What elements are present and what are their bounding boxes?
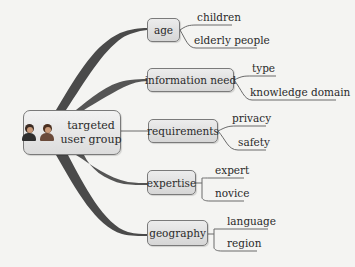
leaf-region[interactable]: region [227,237,261,249]
branch-label: information need [145,74,236,86]
leaf-type[interactable]: type [252,62,275,74]
center-label-line1: targeted [60,119,121,133]
branch-node-information-need[interactable]: information need [147,68,234,92]
leaf-connector-type [234,76,276,80]
branch-label: age [154,24,173,36]
center-label-line2: user group [60,133,121,147]
leaf-expert[interactable]: expert [215,164,249,176]
branch-node-expertise[interactable]: expertise [147,170,196,195]
person-icon [40,124,54,141]
central-node-targeted-user-group[interactable]: targeted user group [23,110,121,155]
central-node-label: targeted user group [60,119,121,147]
branch-label: expertise [147,177,196,189]
branch-node-age[interactable]: age [147,18,180,42]
branch-connector-expertise [76,155,147,185]
leaf-elderly-people[interactable]: elderly people [194,34,270,46]
branch-connector-geography [56,155,147,236]
leaf-connector-children [180,25,232,30]
leaf-knowledge-domain[interactable]: knowledge domain [250,86,350,98]
leaf-novice[interactable]: novice [215,187,249,199]
branch-node-requirements[interactable]: requirements [148,119,218,143]
leaf-children[interactable]: children [197,11,241,23]
branch-label: requirements [147,125,219,137]
leaf-safety[interactable]: safety [238,136,270,148]
branch-node-geography[interactable]: geography [147,220,208,246]
leaf-connector-privacy [218,126,266,131]
people-icon [22,124,54,141]
person-icon [22,124,36,141]
leaf-language[interactable]: language [227,215,276,227]
branch-connector-information-need [76,79,147,110]
leaf-privacy[interactable]: privacy [232,112,271,124]
branch-label: geography [149,227,206,239]
